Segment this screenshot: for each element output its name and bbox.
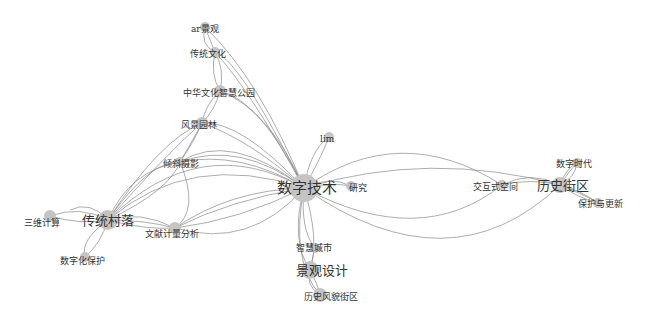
node-label: 景观设计 — [296, 263, 348, 278]
edge — [108, 123, 202, 220]
node-label: 数字时代 — [556, 158, 592, 169]
edge — [304, 185, 560, 238]
node-label: 智慧城市 — [296, 242, 332, 253]
node-label: 中华文化智慧公园 — [183, 87, 255, 98]
node-label: 文献计量分析 — [145, 228, 199, 239]
node-label: 风景园林 — [181, 119, 217, 130]
edge — [108, 123, 202, 220]
node-label: 交互式空间 — [473, 181, 518, 192]
node-label: 历史街区 — [537, 178, 589, 193]
node-label: 保护与更新 — [578, 198, 623, 209]
keyword-cooccurrence-network: 数字技术传统村落历史街区景观设计ar景观传统文化中华文化智慧公园风景园林倾斜摄影… — [0, 0, 648, 319]
node-layer — [44, 22, 603, 302]
edge — [108, 165, 304, 220]
node-label: 传统文化 — [190, 48, 226, 59]
node-label: 数字技术 — [277, 179, 337, 197]
edge — [220, 91, 304, 188]
node-label: 数字化保护 — [60, 255, 105, 266]
node-label: 历史风貌街区 — [304, 291, 358, 302]
node-label: 倾斜摄影 — [163, 158, 199, 169]
label-layer: 数字技术传统村落历史街区景观设计ar景观传统文化中华文化智慧公园风景园林倾斜摄影… — [24, 24, 623, 302]
node-label: 研究 — [349, 182, 367, 193]
node-label: ar景观 — [191, 24, 219, 34]
edge — [108, 175, 304, 220]
node-label: 传统村落 — [82, 213, 134, 228]
node-label: lim — [320, 134, 335, 144]
node-label: 三维计算 — [24, 217, 60, 228]
edge-layer — [50, 27, 598, 295]
edge — [220, 91, 304, 188]
